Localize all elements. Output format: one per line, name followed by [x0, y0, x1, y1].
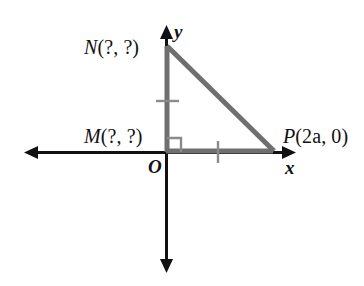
triangle-mnp: [166, 46, 274, 152]
point-label-N-name: N: [84, 36, 97, 58]
geometry-figure: N(?, ?) M(?, ?) P(2a, 0) O x y: [0, 0, 364, 286]
point-label-N-coords: (?, ?): [97, 36, 139, 58]
y-axis-down-arrow: [160, 259, 173, 273]
point-label-M: M(?, ?): [84, 126, 142, 146]
point-label-N: N(?, ?): [84, 37, 139, 57]
segment-NP: [167, 46, 274, 151]
x-axis-left-arrow: [24, 146, 38, 159]
x-axis-label: x: [285, 158, 295, 177]
point-label-P: P(2a, 0): [283, 126, 348, 146]
point-label-M-name: M: [84, 125, 101, 147]
origin-label: O: [148, 157, 162, 176]
y-axis-label: y: [174, 22, 182, 41]
y-axis-up-arrow: [160, 25, 173, 39]
point-label-P-name: P: [283, 125, 295, 147]
point-label-M-coords: (?, ?): [101, 125, 143, 147]
point-label-P-coords: (2a, 0): [295, 125, 348, 147]
